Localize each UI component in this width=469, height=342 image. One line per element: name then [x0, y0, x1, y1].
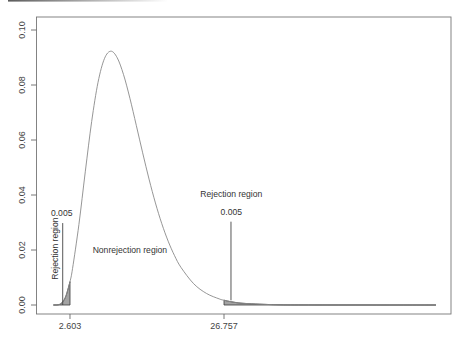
y-axis: 0.000.020.040.060.080.10 — [17, 21, 37, 314]
y-tick-label: 0.00 — [17, 296, 27, 314]
lower-rejection-label: Rejection region — [50, 217, 60, 279]
upper-rejection-label: Rejection region — [200, 189, 262, 199]
x-tick-label: 26.757 — [210, 321, 238, 331]
density-curve — [53, 51, 436, 305]
top-edge-shadow — [8, 0, 168, 2]
lower-alpha-label: 0.005 — [51, 208, 73, 218]
y-tick-label: 0.10 — [17, 21, 27, 39]
plot-frame — [37, 17, 452, 314]
y-tick-label: 0.02 — [17, 241, 27, 259]
upper-alpha-label: 0.005 — [221, 207, 243, 217]
y-tick-label: 0.06 — [17, 131, 27, 149]
y-tick-label: 0.08 — [17, 76, 27, 94]
nonrejection-label: Nonrejection region — [93, 245, 168, 255]
x-axis: 2.60326.757 — [59, 314, 238, 331]
y-tick-label: 0.04 — [17, 186, 27, 204]
chi-square-density-chart: 0.000.020.040.060.080.10 2.60326.757 0.0… — [0, 0, 469, 342]
x-tick-label: 2.603 — [59, 321, 82, 331]
lower-rejection-shaded-area — [53, 282, 70, 305]
